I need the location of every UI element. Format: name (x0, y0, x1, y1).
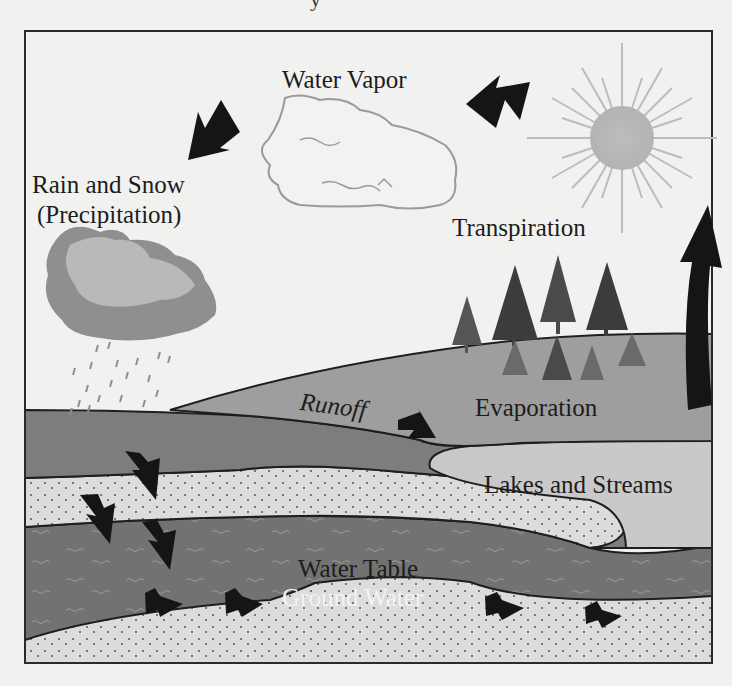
label-precipitation: (Precipitation) (37, 202, 181, 227)
label-lakes-and-streams: Lakes and Streams (484, 472, 673, 497)
label-transpiration: Transpiration (452, 215, 586, 240)
label-water-vapor: Water Vapor (282, 67, 407, 92)
label-rain-and-snow: Rain and Snow (32, 172, 185, 197)
label-water-table: Water Table (298, 556, 418, 581)
label-evaporation: Evaporation (475, 395, 597, 420)
label-ground-water: Ground Water (282, 585, 423, 610)
